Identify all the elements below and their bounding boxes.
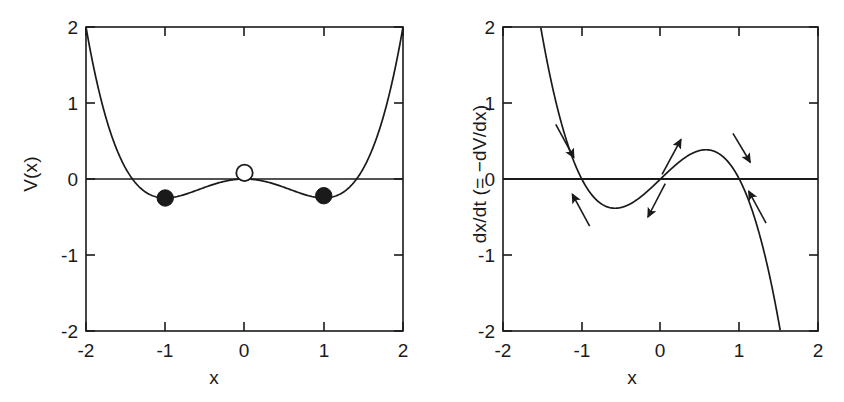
arrow-left-below-axis-icon <box>572 194 589 226</box>
panel-potential: 2 1 0 -1 -2 -2 -1 0 1 2 V(x) x <box>0 0 422 402</box>
x-tick-label: 1 <box>734 340 745 361</box>
arrow-left-above-axis-icon <box>556 124 574 157</box>
figure-root: 2 1 0 -1 -2 -2 -1 0 1 2 V(x) x <box>0 0 844 402</box>
x-tick-label: 2 <box>813 340 824 361</box>
y-axis-label: dx/dt (= −dV/dx) <box>469 64 491 284</box>
x-tick-label: -1 <box>574 340 591 361</box>
equilibrium-markers <box>157 165 332 206</box>
stable-equilibrium-marker <box>157 190 173 206</box>
x-axis-label: x <box>421 367 843 389</box>
arrow-right-above-axis-icon <box>733 133 750 162</box>
y-tick-label: 2 <box>484 17 495 38</box>
y-tick-labels: 2 1 0 -1 -2 <box>61 17 78 342</box>
x-tick-labels: -2 -1 0 1 2 <box>495 340 824 361</box>
stable-equilibrium-marker <box>316 188 332 204</box>
y-tick-label: 2 <box>67 17 78 38</box>
x-tick-label: 2 <box>398 340 409 361</box>
x-tick-label: -1 <box>157 340 174 361</box>
x-tick-label: -2 <box>495 340 512 361</box>
y-tick-label: -2 <box>478 321 495 342</box>
y-tick-label: -2 <box>61 321 78 342</box>
y-tick-label: -1 <box>61 245 78 266</box>
unstable-equilibrium-marker <box>236 165 252 181</box>
x-tick-label: 0 <box>655 340 666 361</box>
y-tick-label: 1 <box>67 93 78 114</box>
x-tick-labels: -2 -1 0 1 2 <box>78 340 409 361</box>
x-axis-label: x <box>3 367 425 389</box>
x-tick-label: 1 <box>319 340 330 361</box>
x-tick-label: 0 <box>239 340 250 361</box>
y-axis-label: V(x) <box>20 114 42 234</box>
flow-direction-arrows <box>556 124 766 226</box>
y-tick-label: 0 <box>67 169 78 190</box>
potential-plot: 2 1 0 -1 -2 -2 -1 0 1 2 <box>0 0 422 402</box>
x-tick-label: -2 <box>78 340 95 361</box>
panel-flow: 2 1 0 -1 -2 -2 -1 0 1 2 dx/dt (= −dV/dx)… <box>422 0 844 402</box>
